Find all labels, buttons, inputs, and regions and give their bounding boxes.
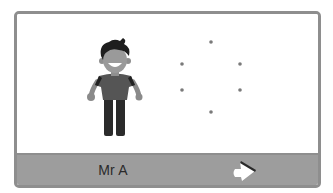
dot-pattern-icon [17,14,318,152]
card-footer: Mr A [17,153,318,187]
arrow-right-icon [229,159,259,185]
card-stage [17,14,318,152]
next-button[interactable] [229,159,259,185]
character-name: Mr A [83,162,143,178]
character-card: Mr A [14,11,321,188]
